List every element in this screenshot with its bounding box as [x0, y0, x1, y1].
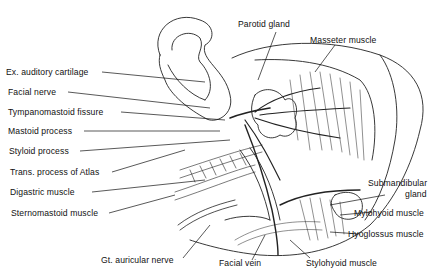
label-stylohyoid-muscle: Stylohyoid muscle [306, 258, 377, 268]
label-mylohyoid-muscle: Mylohyoid muscle [354, 208, 424, 218]
label-submandibular-gland-line2: gland [405, 189, 427, 199]
anatomy-diagram: Ex. auditory cartilage Facial nerve Tymp… [0, 0, 440, 275]
ear-outline [158, 17, 231, 120]
label-sternomastoid-muscle: Sternomastoid muscle [11, 208, 98, 218]
label-submandibular-gland-line1: Submandibular [368, 178, 427, 188]
label-masseter-muscle: Masseter muscle [310, 35, 376, 45]
label-mastoid-process: Mastoid process [8, 126, 72, 136]
label-styloid-process: Styloid process [9, 146, 69, 156]
label-facial-vein: Facial vein [219, 258, 261, 268]
label-trans-process-atlas: Trans. process of Atlas [10, 167, 99, 177]
label-gt-auricular-nerve: Gt. auricular nerve [101, 255, 174, 265]
label-digastric-muscle: Digastric muscle [10, 187, 75, 197]
label-parotid-gland: Parotid gland [238, 19, 290, 29]
label-hyoglossus-muscle: Hyoglossus muscle [348, 229, 424, 239]
label-ex-auditory-cartilage: Ex. auditory cartilage [6, 67, 88, 77]
label-tympanomastoid-fissure: Tympanomastoid fissure [8, 107, 103, 117]
label-facial-nerve: Facial nerve [8, 87, 56, 97]
skin-flap-outline [190, 43, 423, 255]
